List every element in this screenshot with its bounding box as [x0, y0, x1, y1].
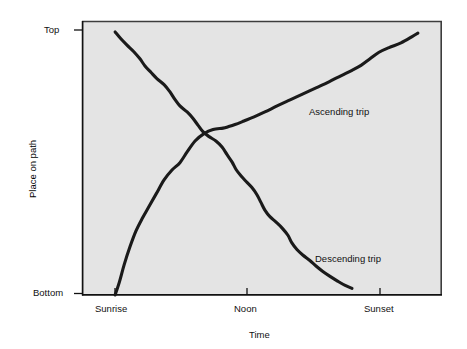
- chart-figure: Place on path Top Bottom Sunrise Noon Su…: [0, 0, 467, 349]
- annotation-descending-trip: Descending trip: [315, 253, 381, 264]
- x-tick-label-noon: Noon: [234, 303, 257, 314]
- x-tick-label-sunrise: Sunrise: [95, 303, 127, 314]
- y-tick-label-bottom: Bottom: [33, 287, 63, 298]
- y-axis-title-wrap: Place on path: [22, 140, 40, 198]
- plot-background: [82, 21, 442, 295]
- x-tick-label-sunset: Sunset: [364, 303, 394, 314]
- annotation-ascending-trip: Ascending trip: [309, 106, 369, 117]
- y-tick-label-top: Top: [44, 24, 59, 35]
- line-chart: [0, 0, 467, 349]
- x-axis-title: Time: [249, 329, 270, 340]
- y-axis-title: Place on path: [27, 140, 38, 198]
